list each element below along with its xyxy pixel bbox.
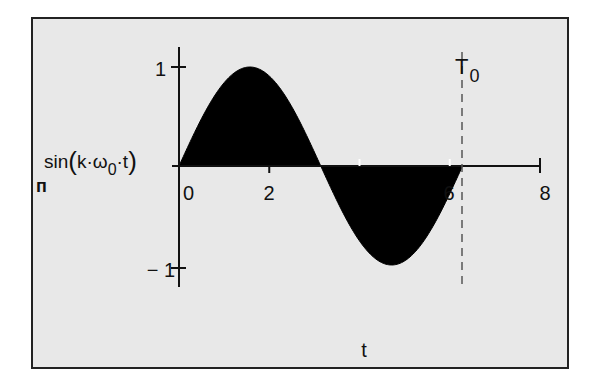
x-tick-label-6: 6 xyxy=(443,182,454,204)
chart-canvas: 1 − 1 0 2 6 8 T0 sin(k·ω0·t) п t xyxy=(0,0,595,387)
y-tick-label-1: 1 xyxy=(155,58,166,80)
placeholder-glyph: п xyxy=(36,176,47,196)
x-tick-label-0: 0 xyxy=(183,182,194,204)
plot-region[interactable]: 1 − 1 0 2 6 8 T0 sin(k·ω0·t) п t xyxy=(0,0,595,387)
x-tick-label-2: 2 xyxy=(263,182,274,204)
x-tick-label-8: 8 xyxy=(539,182,550,204)
plot-frame-border xyxy=(32,18,568,368)
x-axis-label: t xyxy=(361,339,367,361)
y-tick-label-minus-1: − 1 xyxy=(147,259,175,281)
